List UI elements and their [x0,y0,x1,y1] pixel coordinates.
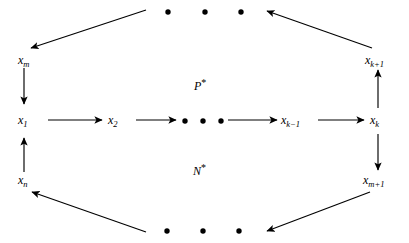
node-subscript-xk: k [375,119,379,129]
top-ellipsis-dot [165,9,170,14]
node-label-xk-plus-1: xk+1 [365,54,384,68]
edge-bottom-ellipsis-to-xn [32,192,146,232]
middle-ellipsis-dot [218,118,223,123]
node-label-x1: x1 [18,114,28,128]
middle-ellipsis-dot [182,118,187,123]
ellipsis-dots-layer [164,9,243,233]
node-label-xn: xn [18,174,28,188]
node-subscript-xn: n [23,179,27,189]
node-subscript-xk-plus-1: k+1 [370,59,384,69]
node-subscript-xk-minus-1: k−1 [286,119,300,129]
node-subscript-xm-plus-1: m+1 [368,179,384,189]
node-label-xm-plus-1: xm+1 [363,174,384,188]
region-label-n-star: N* [193,163,206,177]
top-ellipsis-dot [238,9,243,14]
middle-ellipsis-dot [200,118,205,123]
node-label-x2: x2 [108,114,118,128]
edge-top-ellipsis-to-xm [31,10,146,48]
bottom-ellipsis-dot [200,228,205,233]
node-label-xm: xm [18,54,29,68]
bottom-ellipsis-dot [236,228,241,233]
diagram-edges-layer [0,0,409,243]
region-star-n: * [201,162,206,173]
node-subscript-xm: m [23,59,29,69]
node-label-xk-minus-1: xk−1 [281,114,300,128]
region-star-p: * [201,77,206,88]
node-subscript-x2: 2 [113,119,117,129]
diagram-canvas: xm xk+1 x1 x2 xk−1 xk xn xm+1 P* N* [0,0,409,243]
edge-xm+1-to-bottom-ellipsis [267,192,370,231]
region-base-n: N [193,164,201,178]
node-subscript-x1: 1 [23,119,27,129]
region-label-p-star: P* [194,78,206,92]
bottom-ellipsis-dot [164,228,169,233]
edge-xk+1-to-top-ellipsis [267,11,372,48]
node-label-xk: xk [370,114,379,128]
top-ellipsis-dot [202,9,207,14]
